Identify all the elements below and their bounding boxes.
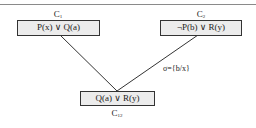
clause-box-c12: Q(a) ∨ R(y) xyxy=(80,91,155,106)
clause-text: ¬P(b) ∨ R(y) xyxy=(177,22,225,32)
label-sub: 2 xyxy=(203,14,206,19)
edge-c2-to-c12 xyxy=(117,35,198,91)
resolution-diagram: C1 P(x) ∨ Q(a) C2 ¬P(b) ∨ R(y) σ={b/x} Q… xyxy=(0,0,256,128)
substitution-text: σ={b/x} xyxy=(163,64,190,73)
label-sub: 1 xyxy=(60,14,63,19)
edge-c1-to-c12 xyxy=(60,35,117,91)
clause-text: P(x) ∨ Q(a) xyxy=(37,22,80,32)
clause-text: Q(a) ∨ R(y) xyxy=(95,93,139,103)
substitution-annotation: σ={b/x} xyxy=(163,64,190,74)
clause-label-c12: C12 xyxy=(102,108,132,121)
clause-box-c2: ¬P(b) ∨ R(y) xyxy=(160,20,242,36)
label-sub: 12 xyxy=(118,113,123,118)
clause-box-c1: P(x) ∨ Q(a) xyxy=(17,20,100,36)
